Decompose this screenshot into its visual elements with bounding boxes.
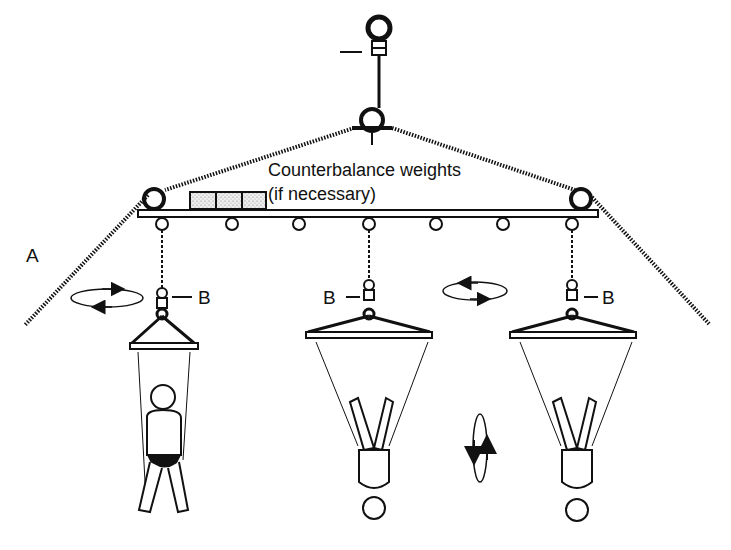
suspension-rig-diagram: A Counterbalance weights (if necessary): [0, 0, 731, 550]
counterbalance-label: Counterbalance weights: [268, 160, 461, 180]
center-hanger: [306, 230, 432, 519]
rotation-arrow-left: [71, 289, 143, 307]
right-hanger: [510, 230, 636, 521]
label-b-right: B: [602, 287, 615, 308]
rotation-arrow-vertical: [473, 414, 487, 482]
top-swivel-hook: [340, 17, 392, 145]
label-b-left: B: [198, 287, 211, 308]
label-b-center: B: [323, 287, 336, 308]
label-a: A: [26, 245, 39, 266]
rotation-arrow-right: [443, 282, 507, 300]
if-necessary-label: (if necessary): [268, 184, 376, 204]
counterbalance-weights: [190, 192, 266, 209]
left-hanger: [130, 230, 198, 512]
